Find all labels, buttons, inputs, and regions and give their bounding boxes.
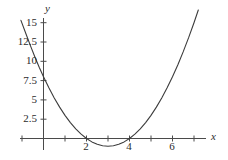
- y-tick-label-12.5: 12.5: [7, 36, 37, 47]
- y-tick-label-10: 10: [7, 55, 37, 66]
- parabola-curve: [21, 10, 198, 146]
- y-tick-label-2.5: 2.5: [7, 113, 37, 124]
- x-tick-label-4: 4: [119, 141, 139, 152]
- y-tick-label-5: 5: [7, 94, 37, 105]
- y-axis-label: y: [45, 3, 50, 14]
- parabola-chart: 15 12.5 10 7.5 5 2.5 2 4 6 y x: [0, 0, 228, 160]
- y-tick-label-15: 15: [7, 17, 37, 28]
- y-tick-label-7.5: 7.5: [7, 75, 37, 86]
- x-axis-label: x: [211, 131, 216, 142]
- x-tick-label-6: 6: [162, 141, 182, 152]
- x-tick-label-2: 2: [76, 141, 96, 152]
